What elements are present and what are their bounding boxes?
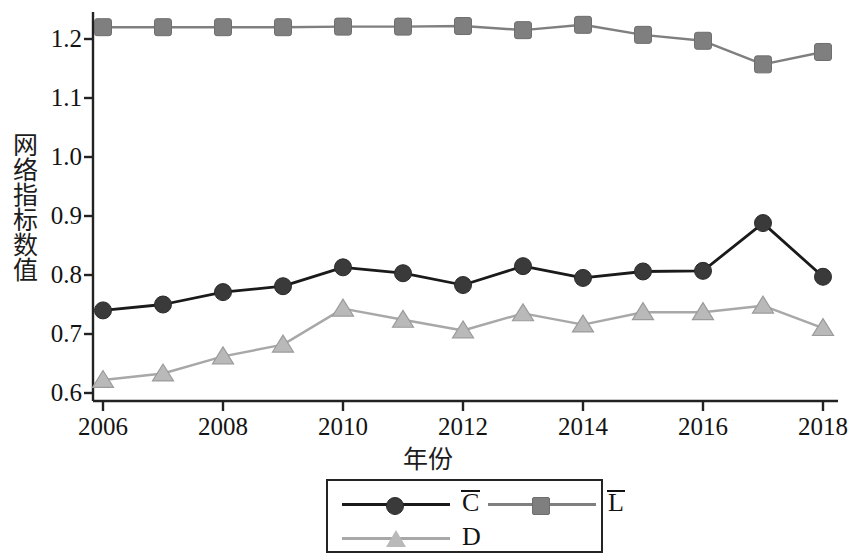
legend-label-overbar: C: [462, 489, 479, 517]
data-point-marker-triangle: [753, 296, 774, 313]
data-point-marker-square: [395, 18, 412, 35]
data-point-marker-triangle: [273, 335, 294, 352]
data-point-marker-square: [275, 19, 292, 36]
data-point-marker-triangle: [813, 319, 834, 336]
data-point-marker-circle: [575, 269, 592, 286]
data-point-marker-circle: [695, 262, 712, 279]
data-point-marker-circle: [515, 258, 532, 275]
data-point-marker-circle: [755, 215, 772, 232]
data-point-marker-circle: [335, 259, 352, 276]
data-point-marker-square: [635, 26, 652, 43]
data-point-marker-circle: [635, 263, 652, 280]
legend-circle-marker: [386, 497, 404, 515]
x-axis-title: 年份: [383, 446, 473, 474]
legend-label: L: [608, 489, 624, 517]
data-point-marker-square: [515, 22, 532, 39]
data-point-marker-circle: [395, 265, 412, 282]
data-point-marker-square: [215, 19, 232, 36]
data-point-marker-circle: [815, 268, 832, 285]
data-point-marker-square: [575, 16, 592, 33]
chart-legend: CLD: [326, 479, 603, 553]
data-point-marker-circle: [155, 296, 172, 313]
legend-item-l: L: [488, 490, 638, 518]
data-point-marker-square: [155, 19, 172, 36]
data-point-marker-square: [755, 56, 772, 73]
data-point-marker-triangle: [513, 304, 534, 321]
data-point-marker-square: [455, 18, 472, 35]
legend-label: D: [462, 523, 481, 551]
data-point-marker-square: [815, 43, 832, 60]
data-point-marker-circle: [95, 302, 112, 319]
legend-square-marker: [532, 497, 550, 515]
legend-triangle-marker: [386, 530, 406, 547]
data-point-marker-square: [695, 32, 712, 49]
legend-item-d: D: [342, 524, 492, 552]
data-point-marker-square: [335, 18, 352, 35]
series-line-d: [103, 306, 823, 380]
legend-label: C: [462, 489, 479, 517]
data-point-marker-triangle: [333, 299, 354, 316]
series-line-c: [103, 223, 823, 310]
legend-item-c: C: [342, 490, 492, 518]
legend-label-overbar: L: [608, 489, 624, 517]
data-point-marker-circle: [215, 284, 232, 301]
data-point-marker-circle: [455, 277, 472, 294]
data-point-marker-circle: [275, 278, 292, 295]
data-point-marker-square: [95, 19, 112, 36]
